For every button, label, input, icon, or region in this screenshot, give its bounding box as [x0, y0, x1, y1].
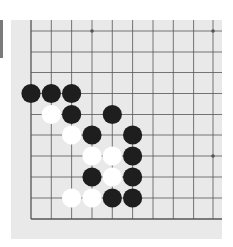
black-stone[interactable]: [123, 167, 142, 186]
white-stone[interactable]: [82, 146, 101, 165]
star-point: [211, 154, 215, 158]
white-stone[interactable]: [62, 188, 81, 207]
white-stone[interactable]: [103, 146, 122, 165]
white-stone[interactable]: [62, 125, 81, 144]
black-stone[interactable]: [123, 146, 142, 165]
black-stone[interactable]: [62, 84, 81, 103]
black-stone[interactable]: [82, 125, 101, 144]
black-stone[interactable]: [82, 167, 101, 186]
star-point: [90, 29, 94, 33]
black-stone[interactable]: [103, 105, 122, 124]
go-board-grid: [0, 0, 233, 247]
black-stone[interactable]: [42, 84, 61, 103]
black-stone[interactable]: [62, 105, 81, 124]
black-stone[interactable]: [103, 188, 122, 207]
black-stone[interactable]: [123, 188, 142, 207]
star-point: [211, 29, 215, 33]
white-stone[interactable]: [82, 188, 101, 207]
black-stone[interactable]: [123, 125, 142, 144]
black-stone[interactable]: [21, 84, 40, 103]
white-stone[interactable]: [42, 105, 61, 124]
white-stone[interactable]: [103, 167, 122, 186]
